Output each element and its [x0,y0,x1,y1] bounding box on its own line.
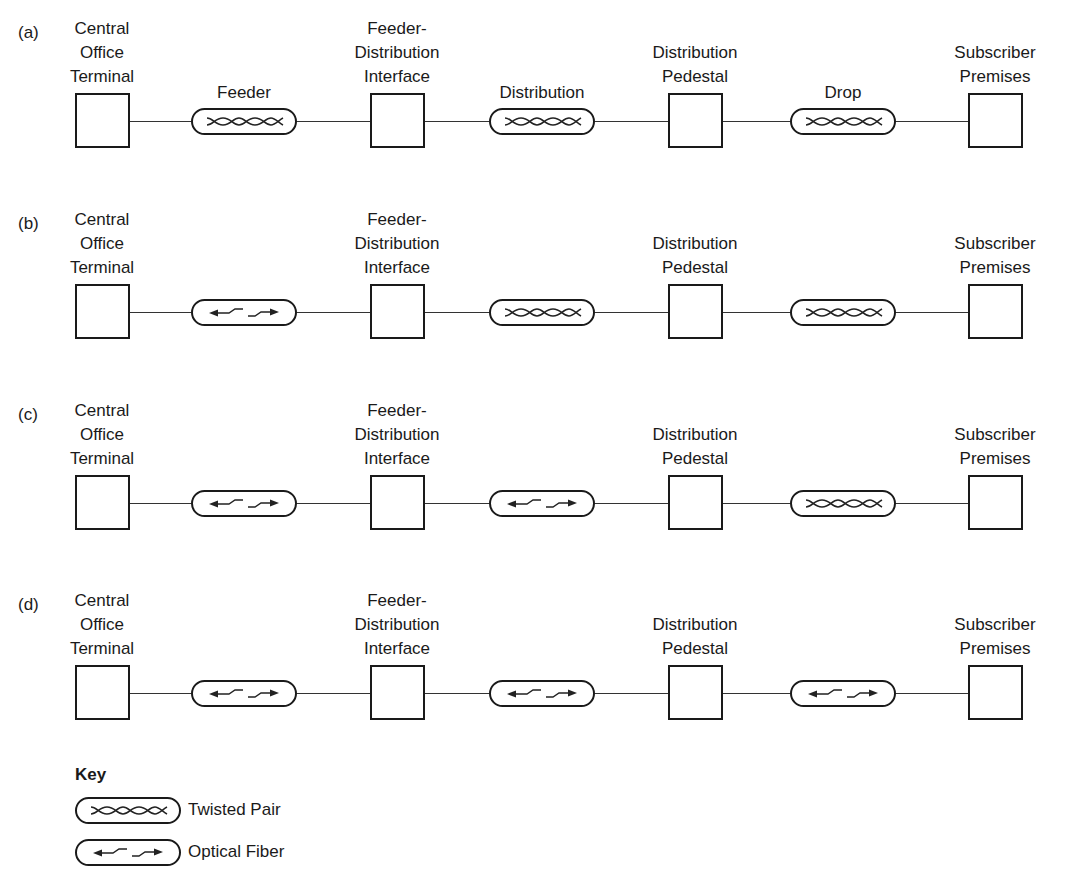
node-label-sp: SubscriberPremises [925,232,1065,280]
node-label-line: Distribution [327,423,467,447]
node-label-line: Pedestal [625,447,765,471]
node-label-line: Interface [327,447,467,471]
twisted-pair-icon [75,797,181,824]
node-label-line: Central [32,589,172,613]
node-label-line: Distribution [625,613,765,637]
node-label-line: Central [32,208,172,232]
node-box-fdi [370,284,425,339]
node-box-co [75,475,130,530]
node-label-line: Office [32,232,172,256]
node-box-dp [668,284,723,339]
node-label-sp: SubscriberPremises [925,613,1065,661]
optical-fiber-icon [489,490,595,517]
node-label-fdi: Feeder-DistributionInterface [327,399,467,471]
node-label-sp: SubscriberPremises [925,423,1065,471]
node-box-sp [968,284,1023,339]
node-label-line: Feeder- [327,589,467,613]
node-label-line: Subscriber [925,613,1065,637]
node-label-fdi: Feeder-DistributionInterface [327,589,467,661]
node-box-fdi [370,665,425,720]
node-label-line: Distribution [625,423,765,447]
node-label-line: Feeder- [327,208,467,232]
twisted-pair-icon [489,299,595,326]
node-label-line: Pedestal [625,637,765,661]
node-box-dp [668,475,723,530]
optical-fiber-icon [75,839,181,866]
node-label-line: Central [32,399,172,423]
node-label-line: Subscriber [925,423,1065,447]
optical-fiber-icon [191,490,297,517]
node-label-dp: DistributionPedestal [625,423,765,471]
node-label-line: Pedestal [625,256,765,280]
twisted-pair-icon [790,490,896,517]
node-box-fdi [370,475,425,530]
node-label-line: Office [32,423,172,447]
node-label-dp: DistributionPedestal [625,232,765,280]
node-label-co: CentralOfficeTerminal [32,208,172,280]
node-label-line: Distribution [327,232,467,256]
node-label-line: Feeder- [327,399,467,423]
node-label-line: Distribution [327,613,467,637]
optical-fiber-icon [489,680,595,707]
node-label-line: Interface [327,256,467,280]
node-box-sp [968,665,1023,720]
optical-fiber-icon [191,299,297,326]
twisted-pair-icon [790,299,896,326]
node-box-dp [668,665,723,720]
key-label: Optical Fiber [188,842,284,862]
node-label-co: CentralOfficeTerminal [32,399,172,471]
node-box-co [75,665,130,720]
node-label-line: Premises [925,447,1065,471]
optical-fiber-icon [790,680,896,707]
node-label-fdi: Feeder-DistributionInterface [327,208,467,280]
node-label-line: Terminal [32,637,172,661]
node-label-line: Interface [327,637,467,661]
node-box-co [75,284,130,339]
key-title: Key [75,765,106,785]
node-label-line: Office [32,613,172,637]
key-label: Twisted Pair [188,800,281,820]
node-label-line: Terminal [32,447,172,471]
node-label-line: Subscriber [925,232,1065,256]
optical-fiber-icon [191,680,297,707]
node-label-line: Premises [925,637,1065,661]
node-label-line: Premises [925,256,1065,280]
node-box-sp [968,475,1023,530]
row-d: (d)CentralOfficeTerminalFeeder-Distribut… [0,0,1066,160]
node-label-line: Terminal [32,256,172,280]
node-label-dp: DistributionPedestal [625,613,765,661]
node-label-line: Distribution [625,232,765,256]
node-label-co: CentralOfficeTerminal [32,589,172,661]
